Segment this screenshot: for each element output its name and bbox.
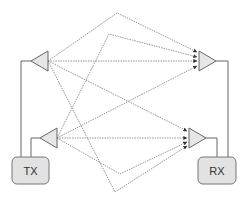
rx-antenna-bottom-icon: [189, 128, 206, 148]
tx-node: TX: [12, 157, 49, 184]
signal-paths-top-left: [48, 13, 197, 192]
tx-wiring: [21, 61, 40, 157]
tx-label: TX: [23, 165, 38, 177]
tx-antenna-bottom-icon: [40, 128, 57, 148]
rx-label: RX: [209, 165, 225, 177]
diagram-canvas: TX RX: [0, 0, 249, 197]
rx-wiring: [206, 61, 228, 157]
rx-antenna-top-icon: [199, 51, 216, 71]
rx-node: RX: [198, 157, 236, 184]
tx-antenna-top-icon: [31, 51, 48, 71]
signal-paths-bottom-left: [57, 34, 197, 174]
